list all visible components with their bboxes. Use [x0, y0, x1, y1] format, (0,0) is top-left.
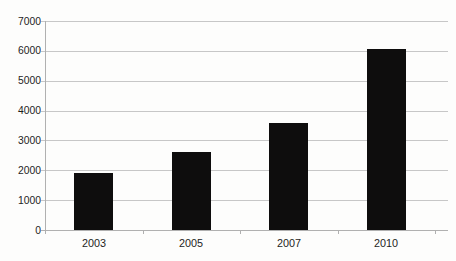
- x-axis-tick: [45, 231, 46, 234]
- y-tick-label-7000: 7000: [2, 15, 41, 28]
- y-tick-label-5000: 5000: [2, 74, 41, 87]
- y-tick-label-6000: 6000: [2, 44, 41, 57]
- bar-2010: [367, 49, 406, 230]
- y-tick-label-2000: 2000: [2, 164, 41, 177]
- y-tick-label-4000: 4000: [2, 104, 41, 117]
- x-axis-tick: [143, 231, 144, 234]
- x-axis-tick: [338, 231, 339, 234]
- bar-2003: [74, 173, 113, 230]
- x-tick-label-2010: 2010: [354, 237, 418, 250]
- bar-chart: 0100020003000400050006000700020032005200…: [0, 0, 456, 261]
- y-tick-label-3000: 3000: [2, 134, 41, 147]
- gridline-7000: [41, 21, 448, 22]
- bar-2005: [172, 152, 211, 230]
- y-tick-label-1000: 1000: [2, 194, 41, 207]
- x-axis-line: [41, 230, 448, 231]
- y-tick-label-0: 0: [2, 224, 41, 237]
- x-tick-label-2003: 2003: [62, 237, 126, 250]
- chart-screenshot: 0100020003000400050006000700020032005200…: [0, 0, 456, 261]
- x-tick-label-2005: 2005: [159, 237, 223, 250]
- y-axis-line: [45, 21, 46, 230]
- x-axis-tick: [435, 231, 436, 234]
- bar-2007: [269, 123, 308, 230]
- x-axis-tick: [240, 231, 241, 234]
- x-tick-label-2007: 2007: [257, 237, 321, 250]
